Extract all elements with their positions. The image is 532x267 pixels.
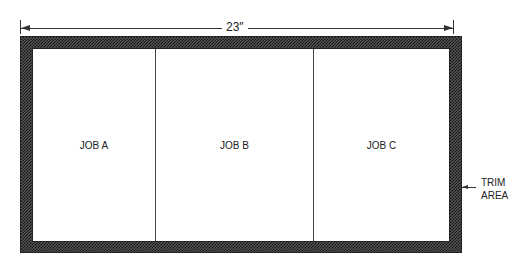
arrow-left-icon <box>21 25 30 31</box>
job-b-panel: JOB B <box>155 49 313 241</box>
trim-arrow-icon <box>462 185 468 189</box>
job-a-label: JOB A <box>80 140 108 151</box>
arrow-right-icon <box>444 25 453 31</box>
trim-label-line1: TRIM <box>481 176 508 189</box>
trim-area-label: TRIM AREA <box>481 176 508 202</box>
job-b-label: JOB B <box>220 140 249 151</box>
job-c-label: JOB C <box>367 140 396 151</box>
dimension-tick-right <box>453 20 454 34</box>
dimension-label: 23″ <box>222 20 248 34</box>
job-a-panel: JOB A <box>33 49 155 241</box>
press-sheet-layout: JOB A JOB B JOB C <box>32 48 450 242</box>
job-c-panel: JOB C <box>313 49 449 241</box>
trim-label-line2: AREA <box>481 189 508 202</box>
